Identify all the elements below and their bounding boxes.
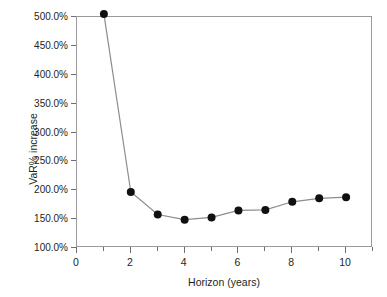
y-axis-tick-label: 500.0% bbox=[34, 11, 68, 22]
x-axis-minor-tick-mark bbox=[318, 247, 319, 251]
data-point-marker bbox=[234, 206, 242, 214]
x-axis-minor-tick-mark bbox=[103, 247, 104, 251]
y-axis-tick-mark bbox=[71, 160, 76, 161]
y-axis-tick-label: 350.0% bbox=[34, 97, 68, 108]
y-axis-tick-mark bbox=[71, 218, 76, 219]
series-polyline bbox=[104, 14, 346, 220]
data-point-marker bbox=[315, 194, 323, 202]
data-point-marker bbox=[100, 10, 108, 18]
x-axis-tick-mark bbox=[237, 247, 238, 253]
y-axis-tick-label: 450.0% bbox=[34, 39, 68, 50]
y-axis-tick-label: 400.0% bbox=[34, 68, 68, 79]
plot-frame bbox=[76, 16, 372, 247]
x-axis-tick-mark bbox=[130, 247, 131, 253]
y-axis-tick-label: 300.0% bbox=[34, 126, 68, 137]
y-axis-tick-label: 100.0% bbox=[34, 242, 68, 253]
data-point-marker bbox=[154, 211, 162, 219]
chart-figure: VaR% increase Horizon (years) 100.0%150.… bbox=[0, 0, 387, 297]
y-axis-tick-mark bbox=[71, 74, 76, 75]
x-axis-tick-mark bbox=[291, 247, 292, 253]
y-axis-tick-mark bbox=[71, 45, 76, 46]
x-axis-tick-label: 10 bbox=[339, 256, 351, 268]
plot-area bbox=[77, 17, 371, 246]
x-axis-minor-tick-mark bbox=[372, 247, 373, 251]
data-point-marker bbox=[261, 206, 269, 214]
data-point-marker bbox=[208, 213, 216, 221]
data-point-marker bbox=[342, 193, 350, 201]
x-axis-tick-label: 2 bbox=[127, 256, 133, 268]
x-axis-tick-label: 0 bbox=[73, 256, 79, 268]
x-axis-tick-label: 4 bbox=[181, 256, 187, 268]
y-axis-tick-mark bbox=[71, 189, 76, 190]
x-axis-tick-mark bbox=[76, 247, 77, 253]
x-axis-minor-tick-mark bbox=[157, 247, 158, 251]
y-axis-tick-mark bbox=[71, 103, 76, 104]
x-axis-minor-tick-mark bbox=[264, 247, 265, 251]
x-axis-minor-tick-mark bbox=[211, 247, 212, 251]
data-point-marker bbox=[288, 198, 296, 206]
x-axis-tick-label: 8 bbox=[288, 256, 294, 268]
y-axis-title: VaR% increase bbox=[27, 113, 39, 185]
x-axis-tick-mark bbox=[184, 247, 185, 253]
data-point-marker bbox=[181, 216, 189, 224]
y-axis-tick-mark bbox=[71, 16, 76, 17]
x-axis-tick-mark bbox=[345, 247, 346, 253]
y-axis-tick-label: 150.0% bbox=[34, 213, 68, 224]
x-axis-tick-label: 6 bbox=[235, 256, 241, 268]
x-axis-title: Horizon (years) bbox=[76, 276, 372, 288]
y-axis-tick-label: 200.0% bbox=[34, 184, 68, 195]
y-axis-tick-mark bbox=[71, 132, 76, 133]
data-series-line bbox=[77, 17, 373, 248]
y-axis-tick-label: 250.0% bbox=[34, 155, 68, 166]
data-point-marker bbox=[127, 188, 135, 196]
